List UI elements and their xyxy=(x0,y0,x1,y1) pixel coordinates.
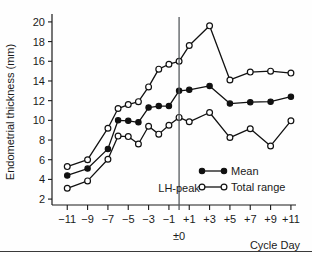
legend-marker-0 xyxy=(199,168,204,173)
data-point-upper xyxy=(166,61,172,67)
data-point-mean xyxy=(146,105,151,110)
chart-canvas: 2468101214161820−11−9−7−5−3−1+1+3+5+7+9+… xyxy=(0,0,312,256)
data-point-lower xyxy=(146,123,152,129)
x-axis-tick-label: −9 xyxy=(81,213,94,225)
data-point-mean xyxy=(227,101,232,106)
data-point-lower xyxy=(105,156,111,162)
data-point-upper xyxy=(186,43,192,49)
data-point-lower xyxy=(288,118,294,124)
data-point-upper xyxy=(247,69,253,75)
data-point-lower xyxy=(166,122,172,128)
chart-figure: 2468101214161820−11−9−7−5−3−1+1+3+5+7+9+… xyxy=(0,0,312,256)
y-axis-tick-label: 20 xyxy=(33,16,45,28)
data-point-upper xyxy=(207,23,213,29)
x-axis-tick-label: +3 xyxy=(203,213,216,225)
data-point-lower xyxy=(64,185,70,191)
data-point-upper xyxy=(227,77,233,83)
data-point-upper xyxy=(288,70,294,76)
zero-day-label: ±0 xyxy=(173,230,185,242)
x-axis-tick-label: +7 xyxy=(244,213,257,225)
data-point-upper xyxy=(125,102,131,108)
y-axis-tick-label: 6 xyxy=(39,154,45,166)
data-point-upper xyxy=(64,164,70,170)
footer-divider xyxy=(0,251,312,252)
data-point-mean xyxy=(156,103,161,108)
x-axis-tick-label: +11 xyxy=(282,213,300,225)
data-point-mean xyxy=(105,146,110,151)
y-axis-tick-label: 16 xyxy=(33,55,45,67)
data-point-upper xyxy=(85,157,91,163)
data-point-lower xyxy=(268,143,274,149)
data-point-mean xyxy=(166,103,171,108)
data-point-mean xyxy=(136,120,141,125)
data-point-mean xyxy=(268,99,273,104)
data-point-upper xyxy=(105,125,111,131)
legend-marker-0 xyxy=(221,168,226,173)
data-point-upper xyxy=(136,99,142,105)
y-axis-tick-label: 10 xyxy=(33,114,45,126)
x-axis-tick-label: −5 xyxy=(122,213,135,225)
data-point-upper xyxy=(115,106,121,112)
legend-label-0: Mean xyxy=(231,165,259,177)
data-point-mean xyxy=(115,118,120,123)
data-point-lower xyxy=(247,126,253,132)
data-point-mean xyxy=(187,87,192,92)
y-axis-tick-label: 8 xyxy=(39,134,45,146)
x-axis-tick-label: +9 xyxy=(264,213,277,225)
x-axis-tick-label: −1 xyxy=(163,213,176,225)
lh-peak-annotation: LH-peak xyxy=(158,182,200,194)
data-point-lower xyxy=(156,131,162,137)
x-axis-title: Cycle Day xyxy=(250,239,301,251)
data-point-lower xyxy=(136,141,142,147)
x-axis-tick-label: −3 xyxy=(142,213,155,225)
legend-marker-1 xyxy=(221,184,227,190)
data-point-lower xyxy=(207,110,213,116)
y-axis-tick-label: 14 xyxy=(33,75,45,87)
data-point-lower xyxy=(115,133,121,139)
data-point-mean xyxy=(288,94,293,99)
y-axis-tick-label: 2 xyxy=(39,193,45,205)
x-axis-tick-label: −11 xyxy=(58,213,76,225)
data-point-lower xyxy=(227,135,233,141)
data-point-upper xyxy=(268,68,274,74)
data-point-mean xyxy=(207,83,212,88)
data-point-lower xyxy=(85,178,91,184)
data-point-mean xyxy=(248,99,253,104)
data-point-lower xyxy=(186,119,192,125)
data-point-lower xyxy=(125,134,131,140)
x-axis-tick-label: −7 xyxy=(102,213,115,225)
data-point-upper xyxy=(146,84,152,90)
x-axis-tick-label: +5 xyxy=(224,213,237,225)
chart-legend: MeanTotal range xyxy=(199,165,285,193)
data-point-mean xyxy=(65,173,70,178)
y-axis-tick-label: 12 xyxy=(33,95,45,107)
x-axis-tick-label: +1 xyxy=(183,213,196,225)
y-axis-tick-label: 18 xyxy=(33,36,45,48)
y-axis-tick-label: 4 xyxy=(39,173,45,185)
data-point-mean xyxy=(85,166,90,171)
data-point-mean xyxy=(126,118,131,123)
legend-marker-1 xyxy=(199,184,205,190)
data-point-upper xyxy=(156,66,162,72)
legend-label-1: Total range xyxy=(231,181,285,193)
y-axis-title: Endometrial thickness (mm) xyxy=(4,44,16,180)
